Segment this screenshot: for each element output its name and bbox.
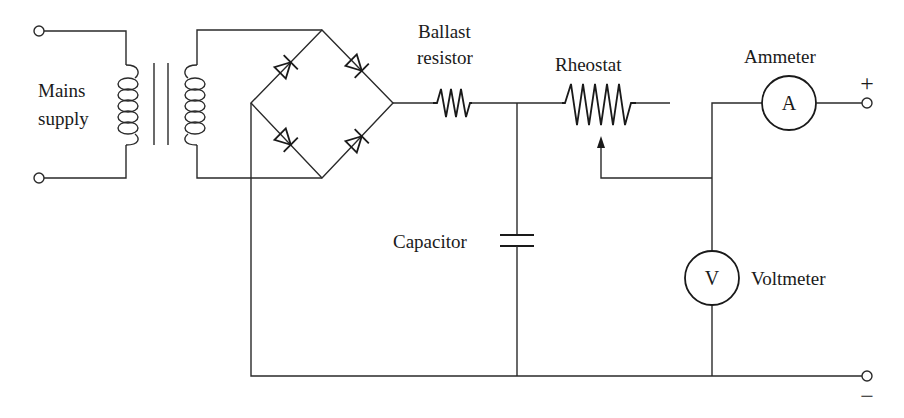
- mains-wire-top: [44, 31, 126, 65]
- circuit-diagram: Mains supply: [0, 0, 904, 418]
- voltmeter-symbol: V: [705, 267, 720, 289]
- secondary-wire-bottom: [197, 145, 322, 178]
- ammeter-symbol: A: [782, 92, 797, 114]
- mains-supply-terminals: [34, 26, 126, 183]
- ammeter-icon: A: [762, 76, 816, 130]
- mains-terminal-bottom: [34, 173, 44, 183]
- negative-sign: −: [860, 383, 874, 409]
- positive-sign: +: [860, 70, 874, 96]
- ballast-label-line1: Ballast: [418, 21, 471, 42]
- mains-terminal-top: [34, 26, 44, 36]
- capacitor-label: Capacitor: [393, 231, 468, 252]
- secondary-wire-top: [197, 30, 322, 65]
- secondary-coil-icon: [185, 65, 205, 145]
- bridge-rectifier: [251, 30, 393, 178]
- rheostat-icon: [562, 84, 636, 125]
- wiper-arrow-icon: [597, 136, 605, 148]
- ballast-label-line2: resistor: [417, 47, 474, 68]
- rheostat-label: Rheostat: [555, 54, 622, 75]
- ballast-resistor-icon: [433, 89, 472, 117]
- negative-rail: [251, 103, 862, 376]
- ammeter-label: Ammeter: [744, 46, 816, 67]
- voltmeter-label: Voltmeter: [751, 268, 826, 289]
- primary-coil-icon: [118, 65, 138, 145]
- negative-terminal: [862, 371, 872, 381]
- mains-label-line2: supply: [38, 108, 89, 129]
- mains-wire-bottom: [44, 145, 126, 178]
- positive-terminal: [862, 98, 872, 108]
- bridge-diamond: [251, 30, 393, 178]
- voltmeter-icon: V: [685, 251, 739, 305]
- mains-label-line1: Mains: [38, 80, 86, 101]
- transformer: [118, 30, 322, 178]
- output-wire-vertical: [712, 103, 762, 251]
- rheostat-wiper-wire: [601, 147, 712, 178]
